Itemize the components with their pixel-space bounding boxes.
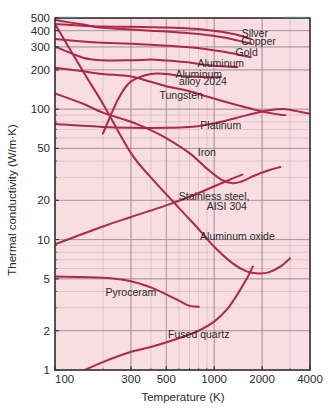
x-axis-title: Temperature (K) xyxy=(141,391,224,403)
y-tick-label-300: 300 xyxy=(31,41,50,53)
curve-label-platinum: Platinum xyxy=(200,119,241,131)
y-tick-label-10: 10 xyxy=(37,234,50,246)
y-axis-title: Thermal conductivity (W/m·K) xyxy=(6,124,18,276)
y-tick-label-500: 500 xyxy=(31,12,50,24)
y-tick-label-100: 100 xyxy=(31,103,50,115)
x-tick-label-500: 500 xyxy=(157,373,176,385)
y-tick-label-200: 200 xyxy=(31,64,50,76)
curve-label-fused-quartz: Fused quartz xyxy=(168,328,229,340)
x-tick-label-100: 100 xyxy=(55,373,74,385)
y-tick-label-50: 50 xyxy=(37,142,50,154)
curve-label-aisi-304: AISI 304 xyxy=(207,200,247,212)
y-tick-label-5: 5 xyxy=(44,273,50,285)
y-tick-label-20: 20 xyxy=(37,194,50,206)
thermal-conductivity-figure: 1003005001000200040001251020501002003004… xyxy=(0,0,330,408)
y-tick-label-1: 1 xyxy=(44,364,50,376)
x-tick-label-300: 300 xyxy=(121,373,140,385)
thermal-conductivity-chart: 1003005001000200040001251020501002003004… xyxy=(0,0,330,408)
y-tick-label-400: 400 xyxy=(31,25,50,37)
curve-label-alloy-2024: alloy 2024 xyxy=(179,75,227,87)
y-tick-label-2: 2 xyxy=(44,325,50,337)
curve-label-aluminum-oxide: Aluminum oxide xyxy=(200,230,275,242)
curve-label-iron: Iron xyxy=(198,146,216,158)
curve-label-tungsten: Tungsten xyxy=(159,89,203,101)
curve-label-aluminum: Aluminum xyxy=(197,57,244,69)
x-tick-label-2000: 2000 xyxy=(249,373,275,385)
curve-label-pyroceram: Pyroceram xyxy=(106,286,157,298)
x-tick-label-1000: 1000 xyxy=(201,373,227,385)
x-tick-label-4000: 4000 xyxy=(297,373,323,385)
